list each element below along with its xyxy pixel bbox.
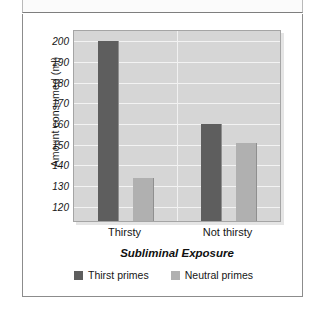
chart-legend: Thirst primesNeutral primes	[23, 269, 304, 281]
y-axis-ticks: 120130140150160170180190200	[23, 30, 73, 222]
legend-label: Thirst primes	[88, 269, 149, 281]
bar	[98, 41, 119, 221]
y-tick-label: 150	[27, 139, 73, 150]
figure-header-band	[22, 0, 303, 13]
bar	[133, 178, 154, 221]
category-divider	[177, 31, 178, 221]
legend-swatch-icon	[74, 271, 83, 280]
y-tick-label: 140	[27, 160, 73, 171]
y-tick-label: 190	[27, 56, 73, 67]
figure-frame: Amount consumed (ml) 1201301401501601701…	[0, 0, 313, 310]
legend-item[interactable]: Thirst primes	[74, 269, 149, 281]
y-tick-label: 130	[27, 180, 73, 191]
y-tick-label: 180	[27, 77, 73, 88]
legend-label: Neutral primes	[185, 269, 253, 281]
figure-box: Amount consumed (ml) 1201301401501601701…	[22, 14, 303, 297]
y-tick-label: 160	[27, 118, 73, 129]
plot-panel	[73, 30, 281, 222]
y-tick-label: 200	[27, 36, 73, 47]
x-axis-title: Subliminal Exposure	[73, 247, 281, 259]
legend-swatch-icon	[171, 271, 180, 280]
bar	[201, 124, 222, 221]
legend-item[interactable]: Neutral primes	[171, 269, 253, 281]
y-tick-label: 120	[27, 201, 73, 212]
bar-chart: Amount consumed (ml) 1201301401501601701…	[23, 14, 304, 297]
bar	[236, 143, 257, 221]
x-tick-label: Thirsty	[108, 226, 141, 238]
x-tick-label: Not thirsty	[203, 226, 253, 238]
y-tick-label: 170	[27, 98, 73, 109]
